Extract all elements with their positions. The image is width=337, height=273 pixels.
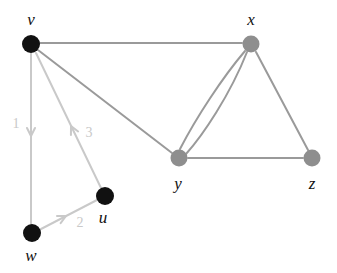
edge-weight-u-v: 3 <box>86 126 93 140</box>
vertex-y[interactable] <box>171 150 188 167</box>
vertex-u[interactable] <box>96 187 114 205</box>
directed-edge-group <box>27 53 101 229</box>
vertex-label-u: u <box>99 209 108 226</box>
vertex-label-y: y <box>174 175 182 192</box>
vertex-label-z: z <box>309 175 316 192</box>
vertex-group <box>22 35 321 242</box>
graph-figure: v x y z u w 1 2 3 <box>0 0 337 273</box>
vertex-z[interactable] <box>304 150 321 167</box>
edge-x-y-upper <box>180 51 245 149</box>
vertex-x[interactable] <box>243 36 260 53</box>
edge-x-y-lower <box>186 52 247 154</box>
edge-weight-w-u: 2 <box>77 216 84 230</box>
vertex-label-x: x <box>247 11 255 28</box>
edge-weight-v-w: 1 <box>13 117 20 131</box>
edge-v-y <box>38 50 172 153</box>
graph-canvas <box>0 0 337 273</box>
vertex-label-w: w <box>25 247 36 264</box>
vertex-label-v: v <box>27 11 35 28</box>
edge-w-u <box>41 200 97 229</box>
vertex-w[interactable] <box>23 224 41 242</box>
vertex-v[interactable] <box>22 35 40 53</box>
edge-x-z <box>256 52 308 150</box>
